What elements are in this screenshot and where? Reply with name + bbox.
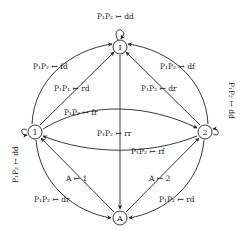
label-2-i-inner: P₁P₂ ↦ dr [141, 84, 177, 93]
node-2-label: 2 [202, 128, 207, 137]
node-2: 2 [198, 125, 212, 139]
node-a-label: A [116, 214, 123, 223]
node-1: 1 [28, 125, 42, 139]
label-1-self: P₁P₂ ↦ dd [11, 146, 20, 183]
edge-i-self [116, 30, 124, 40]
node-i-label: I [118, 43, 121, 52]
label-2-1: P₁P₂ ↦ rf [131, 147, 166, 156]
label-2-self: P₁P₂ ↦ dd [227, 82, 236, 119]
label-a-1: A ↦ 1 [65, 174, 87, 183]
edge-2-self [213, 129, 218, 135]
node-i: I [113, 40, 127, 54]
label-1-2: P₁P₂ ↦ fr [64, 108, 98, 117]
label-1-i-inner: P₁P₁ ↦ rd [54, 84, 90, 93]
label-1-a: P₁P₂ ↦ dr [34, 195, 70, 204]
label-2-a: P₁P₂ ↦ rd [159, 195, 195, 204]
label-2-i-outer: P₁P₂ ↦ df [160, 62, 196, 71]
label-i-a: P₁P₂ ↦ rr [97, 129, 132, 138]
node-1-label: 1 [32, 128, 37, 137]
edge-1-self [22, 129, 27, 135]
label-a-2: A ↦ 2 [148, 174, 170, 183]
node-a: A [113, 211, 127, 225]
label-i-self: P₁P₂ ↦ dd [97, 12, 134, 21]
state-diagram: I 1 2 A P₁P₂ ↦ dd P₁P₂ ↦ fd P₁P₁ ↦ rd P₁… [0, 0, 240, 238]
label-1-i-outer: P₁P₂ ↦ fd [33, 62, 68, 71]
